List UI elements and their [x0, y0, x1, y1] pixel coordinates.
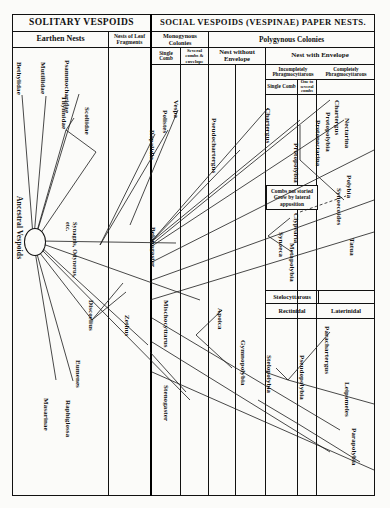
- label-polistes: Polistes: [161, 110, 169, 133]
- label-zethus: Zethus: [123, 315, 131, 336]
- label-stelopolybia: Stelopolybia: [265, 355, 273, 393]
- label-eumenes: Eumenes: [74, 360, 82, 388]
- label-belonogaster: Belonogaster: [149, 227, 157, 267]
- label-synoeca: Synoeca: [277, 232, 285, 257]
- label-synagris-odynerus: Synagris, Odynerus, etc.: [64, 222, 78, 286]
- label-raphiglossa: Raphiglossa: [64, 400, 72, 437]
- label-bethylidae: Bethylidae: [15, 62, 23, 95]
- label-synoecoides: Synoecoides: [335, 188, 343, 225]
- label-leipomeles: Leipomeles: [343, 382, 351, 417]
- label-parapolybia: Parapolybia: [350, 428, 358, 466]
- label-mutillidae: Mutillidae: [39, 62, 47, 94]
- label-tatua: Tatua: [348, 238, 356, 256]
- label-masarinae: Masarinae: [42, 398, 50, 431]
- label-mischocyttarus: Mischocyttarus: [162, 300, 170, 348]
- branch-lines: [0, 0, 390, 508]
- label-ropalidia: Ropalidia: [148, 130, 156, 160]
- label-protopolybia-right: Protopolybia: [324, 112, 332, 152]
- label-protonectarina: Protonectarina: [314, 120, 322, 166]
- label-stenogaster: Stenogaster: [162, 385, 170, 421]
- label-ancestral-vespoids: Ancestral Vespoids: [15, 196, 24, 259]
- origin-node: [24, 228, 46, 256]
- label-gymnopolybia: Gymnopolybia: [239, 340, 247, 386]
- label-chartergus-right: Chartergus: [333, 100, 341, 135]
- phylogeny-chart: SOLITARY VESPOIDS SOCIAL VESPOIDS (VESPI…: [0, 0, 390, 508]
- label-clypearia: Clypearia: [292, 213, 300, 243]
- label-discoelius: Discoelius: [87, 300, 95, 331]
- label-metapolybia: Metapolybia: [288, 243, 296, 282]
- label-protopolybia-left: Protopolybia: [292, 143, 300, 183]
- label-apoica: Apoica: [216, 308, 224, 330]
- label-polybia: Polybia: [345, 175, 353, 198]
- label-pseudopolybia: Pseudopolybia: [298, 355, 306, 400]
- label-vespa: Vespa: [172, 100, 180, 118]
- label-chartergus-left: Chartergus: [264, 108, 272, 143]
- label-scoliidae: Scoliidae: [83, 107, 91, 135]
- label-pseudochartergus: Pseudochartergus: [210, 118, 218, 173]
- label-thynnidae: Thynnidae: [60, 96, 68, 129]
- label-parachartergus: Parachartergus: [323, 326, 331, 374]
- label-nectarina: Nectarina: [343, 118, 351, 148]
